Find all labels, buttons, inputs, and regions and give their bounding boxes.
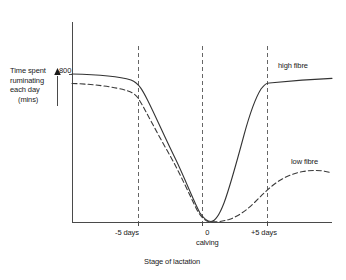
x-tick-label-minus-5-days: -5 days <box>115 228 139 238</box>
x-tick-label-zero: 0 calving <box>196 228 219 247</box>
x-tick-label-calving: calving <box>196 238 219 248</box>
y-axis-label-line-3: each day <box>10 85 68 95</box>
legend-high-fibre-leader <box>277 71 332 79</box>
x-axis-title: Stage of lactation <box>144 257 200 267</box>
x-tick-label-zero-value: 0 <box>205 228 209 237</box>
legend-label-high-fibre: high fibre <box>278 61 308 71</box>
y-axis-label-line-2: ruminating <box>10 76 68 86</box>
x-tick-label-plus-5-days: +5 days <box>251 228 277 238</box>
legend-label-low-fibre: low fibre <box>291 157 318 167</box>
y-axis-label-line-4: (mins) <box>10 95 68 105</box>
chart-plot-area <box>0 0 346 280</box>
chart-figure: Time spent ruminating each day (mins) 80… <box>0 0 346 280</box>
y-tick-label-800: 800 <box>59 66 71 76</box>
